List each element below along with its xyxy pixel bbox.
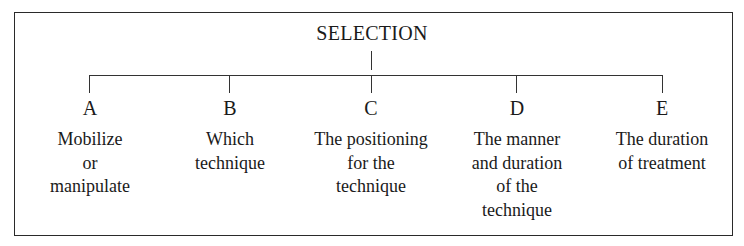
desc-line: technique [442,199,592,223]
desc-line: for the [296,152,446,176]
desc-line: of the [442,175,592,199]
desc-line: Mobilize [15,128,165,152]
branch-drop-a [89,75,90,93]
node-letter: C [296,96,446,120]
node-letter: E [587,96,737,120]
desc-line: Which [155,128,305,152]
node-letter: A [15,96,165,120]
node-description: The duration of treatment [587,128,737,175]
desc-line: technique [296,175,446,199]
branch-drop-d [516,75,517,93]
desc-line: or [15,152,165,176]
node-letter: B [155,96,305,120]
node-c: C The positioning for the technique [296,96,446,199]
node-description: Which technique [155,128,305,175]
branch-drop-b [229,75,230,93]
root-connector [371,51,372,70]
branch-drop-c [371,75,372,93]
branch-drop-e [662,75,663,93]
node-letter: D [442,96,592,120]
node-a: A Mobilize or manipulate [15,96,165,199]
desc-line: of treatment [587,152,737,176]
node-e: E The duration of treatment [587,96,737,175]
node-description: The positioning for the technique [296,128,446,199]
desc-line: and duration [442,152,592,176]
root-node-selection: SELECTION [272,22,472,45]
node-description: Mobilize or manipulate [15,128,165,199]
desc-line: The positioning [296,128,446,152]
node-description: The manner and duration of the technique [442,128,592,222]
desc-line: The duration [587,128,737,152]
desc-line: manipulate [15,175,165,199]
node-d: D The manner and duration of the techniq… [442,96,592,222]
desc-line: technique [155,152,305,176]
node-b: B Which technique [155,96,305,175]
branch-line [89,75,663,76]
desc-line: The manner [442,128,592,152]
